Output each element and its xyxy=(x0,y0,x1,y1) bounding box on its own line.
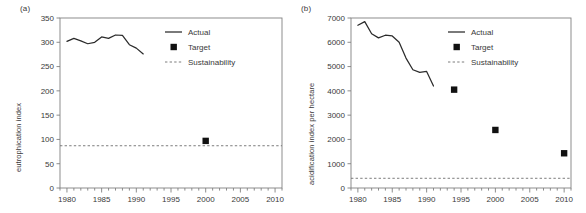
panel-b-plot: 0100020003000400050006000700019801985199… xyxy=(293,0,586,213)
y-tick-label: 7000 xyxy=(327,14,345,23)
panel-a-plot: 0501001502002503003501980198519901995200… xyxy=(0,0,293,213)
y-tick-label: 3000 xyxy=(327,111,345,120)
y-tick-label: 100 xyxy=(41,135,55,144)
legend-square-swatch xyxy=(454,44,460,50)
x-tick-label: 1995 xyxy=(452,195,470,204)
figure-root: (a) eutrophication index 050100150200250… xyxy=(0,0,586,213)
legend-label: Sustainability xyxy=(188,58,235,67)
series-target-marker xyxy=(451,86,457,92)
legend-label: Actual xyxy=(471,28,493,37)
x-tick-label: 1995 xyxy=(162,195,180,204)
legend-square-swatch xyxy=(171,44,177,50)
series-target-marker xyxy=(561,150,567,156)
x-tick-label: 1980 xyxy=(58,195,76,204)
plot-frame xyxy=(60,18,282,188)
x-tick-label: 1990 xyxy=(418,195,436,204)
y-tick-label: 4000 xyxy=(327,87,345,96)
y-tick-label: 150 xyxy=(41,111,55,120)
plot-frame xyxy=(351,18,571,188)
x-tick-label: 2010 xyxy=(266,195,284,204)
series-target-marker xyxy=(492,127,498,133)
x-tick-label: 2010 xyxy=(555,195,573,204)
y-tick-label: 250 xyxy=(41,62,55,71)
y-tick-label: 350 xyxy=(41,14,55,23)
y-tick-label: 200 xyxy=(41,87,55,96)
y-tick-label: 0 xyxy=(341,184,346,193)
panel-b: (b) acidification index per hectare 0100… xyxy=(293,0,586,213)
y-tick-label: 0 xyxy=(50,184,55,193)
series-actual-line xyxy=(67,35,143,54)
legend-label: Sustainability xyxy=(471,58,518,67)
y-tick-label: 300 xyxy=(41,38,55,47)
legend-label: Actual xyxy=(188,28,210,37)
y-tick-label: 50 xyxy=(45,160,54,169)
y-tick-label: 5000 xyxy=(327,62,345,71)
series-target-marker xyxy=(202,138,208,144)
y-tick-label: 1000 xyxy=(327,160,345,169)
x-tick-label: 2005 xyxy=(231,195,249,204)
y-tick-label: 2000 xyxy=(327,135,345,144)
x-tick-label: 2000 xyxy=(197,195,215,204)
x-tick-label: 1990 xyxy=(127,195,145,204)
x-tick-label: 1980 xyxy=(349,195,367,204)
legend-label: Target xyxy=(471,43,494,52)
x-tick-label: 2005 xyxy=(521,195,539,204)
panel-a: (a) eutrophication index 050100150200250… xyxy=(0,0,293,213)
legend-label: Target xyxy=(188,43,211,52)
series-actual-line xyxy=(358,22,434,86)
y-tick-label: 6000 xyxy=(327,38,345,47)
x-tick-label: 1985 xyxy=(93,195,111,204)
x-tick-label: 2000 xyxy=(486,195,504,204)
x-tick-label: 1985 xyxy=(383,195,401,204)
